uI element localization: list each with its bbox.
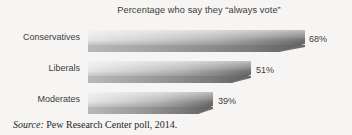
bar-shadow xyxy=(88,45,305,52)
category-label-conservatives: Conservatives xyxy=(0,32,80,42)
chart-figure: Percentage who say they “always vote” Co… xyxy=(0,0,352,135)
chart-title: Percentage who say they “always vote” xyxy=(84,5,314,15)
value-label-moderates: 39% xyxy=(218,96,236,106)
bar-shadow xyxy=(88,76,251,83)
bar-moderates[interactable] xyxy=(88,92,213,114)
category-label-liberals: Liberals xyxy=(0,63,80,73)
bar-conservatives[interactable] xyxy=(88,30,305,52)
bar-row: Liberals 51% xyxy=(0,57,352,87)
value-label-liberals: 51% xyxy=(256,65,274,75)
source-text: Pew Research Center poll, 2014. xyxy=(46,119,177,130)
bar-shadow xyxy=(88,107,213,114)
source-label: Source: xyxy=(13,119,44,130)
bar-liberals[interactable] xyxy=(88,61,251,83)
value-label-conservatives: 68% xyxy=(309,34,327,44)
bar-row: Moderates 39% xyxy=(0,88,352,118)
plot-area: Conservatives 68% Liberals 51% Moderates… xyxy=(0,24,352,116)
source-note: Source: Pew Research Center poll, 2014. xyxy=(13,119,177,130)
bar-row: Conservatives 68% xyxy=(0,26,352,56)
category-label-moderates: Moderates xyxy=(0,94,80,104)
